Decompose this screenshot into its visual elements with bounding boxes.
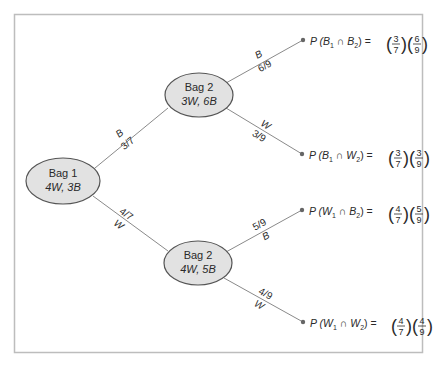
svg-text:(: ( [391, 316, 397, 336]
svg-text:6: 6 [414, 34, 419, 44]
svg-text:4W, 3B: 4W, 3B [45, 181, 81, 193]
outcome-dot [300, 152, 304, 156]
svg-text:3: 3 [395, 148, 400, 158]
outcome-formula-WB: P (W1 ∩ B2) = ( 4 7 )( 5 9 ) [309, 204, 430, 225]
branch-label-top-B: B 6/9 [250, 46, 274, 74]
outcome-formula-BW: P (B1 ∩ W2) = ( 3 7 )( 3 9 ) [309, 148, 430, 169]
svg-text:P (B1 ∩ B2) =: P (B1 ∩ B2) = [310, 35, 371, 49]
svg-text:)(: )( [406, 316, 418, 336]
svg-text:4: 4 [419, 316, 424, 326]
outcome-formula-BB: P (B1 ∩ B2) = ( 3 7 )( 6 9 ) [310, 34, 428, 55]
outcome-dot [301, 320, 305, 324]
svg-text:4W, 5B: 4W, 5B [180, 263, 216, 275]
svg-text:P (W1 ∩ W2) =: P (W1 ∩ W2) = [310, 317, 377, 331]
node-bag2-top: Bag 2 3W, 6B [165, 73, 233, 117]
svg-text:Bag 1: Bag 1 [49, 167, 78, 179]
svg-text:3W, 6B: 3W, 6B [181, 95, 217, 107]
outcome-formula-WW: P (W1 ∩ W2) = ( 4 7 )( 4 9 ) [310, 316, 433, 337]
branch-bag1-W [93, 196, 168, 251]
branch-top-W [226, 108, 302, 154]
svg-text:4: 4 [395, 204, 400, 214]
probability-tree-diagram: B 3/7 4/7 W B 6/9 W 3/9 5/9 B 4/9 W Bag … [0, 0, 434, 366]
svg-text:Bag 2: Bag 2 [184, 249, 213, 261]
svg-text:): ) [424, 204, 430, 224]
svg-text:(: ( [388, 204, 394, 224]
svg-text:9: 9 [419, 327, 424, 337]
svg-text:): ) [424, 148, 430, 168]
svg-text:B: B [113, 127, 125, 140]
branch-label-bag1-B: B 3/7 [110, 124, 136, 152]
outcome-dot [301, 38, 305, 42]
svg-text:5: 5 [416, 204, 421, 214]
svg-text:): ) [427, 316, 433, 336]
svg-text:)(: )( [401, 34, 413, 54]
svg-text:9: 9 [416, 215, 421, 225]
svg-text:B: B [253, 48, 264, 61]
svg-text:3: 3 [393, 34, 398, 44]
svg-text:P (W1 ∩ B2) =: P (W1 ∩ B2) = [309, 205, 373, 219]
branch-label-bot-B: 5/9 B [251, 216, 275, 244]
svg-text:7: 7 [395, 215, 400, 225]
svg-text:3: 3 [416, 148, 421, 158]
svg-text:4: 4 [398, 316, 403, 326]
svg-text:9: 9 [416, 159, 421, 169]
svg-text:): ) [422, 34, 428, 54]
svg-text:Bag 2: Bag 2 [185, 81, 214, 93]
svg-text:7: 7 [395, 159, 400, 169]
svg-text:(: ( [386, 34, 392, 54]
svg-text:W: W [253, 298, 268, 313]
branch-label-bag1-W: 4/7 W [110, 205, 136, 233]
svg-text:(: ( [388, 148, 394, 168]
svg-text:7: 7 [398, 327, 403, 337]
outcome-dot [300, 208, 304, 212]
svg-text:)(: )( [403, 148, 415, 168]
svg-text:P (B1 ∩ W2) =: P (B1 ∩ W2) = [309, 149, 373, 163]
svg-text:9: 9 [414, 45, 419, 55]
svg-text:B: B [260, 229, 271, 242]
node-bag2-bottom: Bag 2 4W, 5B [164, 241, 232, 285]
node-bag1: Bag 1 4W, 3B [26, 158, 100, 204]
svg-text:7: 7 [393, 45, 398, 55]
svg-text:)(: )( [403, 204, 415, 224]
